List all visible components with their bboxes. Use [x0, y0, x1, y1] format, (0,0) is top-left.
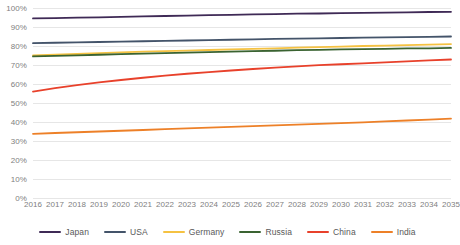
x-axis-tick-label: 2028: [288, 200, 306, 209]
x-axis-tick-label: 2019: [90, 200, 108, 209]
y-axis-tick-label: 30%: [11, 137, 27, 146]
plot-area: [33, 8, 451, 198]
x-axis-tick-label: 2034: [420, 200, 438, 209]
x-axis-tick-label: 2035: [442, 200, 460, 209]
legend-label: USA: [130, 227, 148, 237]
series-line-germany: [33, 44, 451, 55]
series-line-china: [33, 59, 451, 91]
x-axis-tick-label: 2020: [112, 200, 130, 209]
series-line-india: [33, 119, 451, 134]
legend-item-india[interactable]: India: [371, 227, 416, 237]
x-axis-tick-label: 2023: [178, 200, 196, 209]
x-axis-tick-label: 2030: [332, 200, 350, 209]
legend-item-russia[interactable]: Russia: [239, 227, 292, 237]
legend-label: Japan: [65, 227, 89, 237]
legend-label: Russia: [265, 227, 292, 237]
x-axis-tick-label: 2021: [134, 200, 152, 209]
legend-swatch-india: [371, 231, 393, 234]
series-canvas: [33, 8, 451, 198]
y-axis-tick-label: 40%: [11, 118, 27, 127]
y-axis-tick-label: 100%: [6, 4, 27, 13]
x-axis-tick-label: 2022: [156, 200, 174, 209]
x-axis-tick-label: 2025: [222, 200, 240, 209]
y-axis-tick-label: 50%: [11, 99, 27, 108]
legend-swatch-china: [307, 231, 329, 234]
legend-label: India: [397, 227, 416, 237]
y-axis-tick-label: 60%: [11, 80, 27, 89]
legend-swatch-usa: [104, 231, 126, 234]
legend-swatch-japan: [39, 231, 61, 234]
legend-item-china[interactable]: China: [307, 227, 356, 237]
y-axis-tick-label: 90%: [11, 23, 27, 32]
legend-swatch-russia: [239, 231, 261, 234]
series-line-usa: [33, 37, 451, 44]
x-axis-tick-label: 2026: [244, 200, 262, 209]
y-axis-tick-label: 20%: [11, 156, 27, 165]
x-axis-tick-label: 2018: [68, 200, 86, 209]
legend-swatch-germany: [163, 231, 185, 234]
series-line-japan: [33, 12, 451, 19]
x-axis-tick-label: 2032: [376, 200, 394, 209]
y-axis-tick-label: 70%: [11, 61, 27, 70]
x-axis-tick-label: 2031: [354, 200, 372, 209]
legend-item-germany[interactable]: Germany: [163, 227, 225, 237]
chart-legend: JapanUSAGermanyRussiaChinaIndia: [0, 224, 455, 240]
legend-item-japan[interactable]: Japan: [39, 227, 89, 237]
x-axis-tick-label: 2024: [200, 200, 218, 209]
x-axis-tick-label: 2016: [24, 200, 42, 209]
x-axis: 2016201720182019202020212022202320242025…: [33, 200, 451, 214]
x-axis-tick-label: 2029: [310, 200, 328, 209]
legend-label: China: [333, 227, 356, 237]
gridline: [33, 198, 451, 199]
legend-label: Germany: [189, 227, 225, 237]
legend-item-usa[interactable]: USA: [104, 227, 148, 237]
x-axis-tick-label: 2027: [266, 200, 284, 209]
x-axis-tick-label: 2033: [398, 200, 416, 209]
x-axis-tick-label: 2017: [46, 200, 64, 209]
y-axis-tick-label: 80%: [11, 42, 27, 51]
y-axis: 0%10%20%30%40%50%60%70%80%90%100%: [0, 8, 30, 198]
y-axis-tick-label: 10%: [11, 175, 27, 184]
